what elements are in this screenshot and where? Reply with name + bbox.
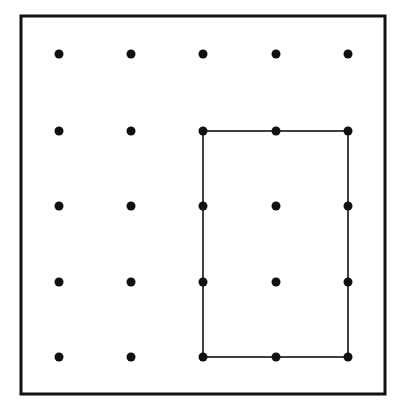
peg [127,278,136,287]
peg [199,278,208,287]
peg [344,202,353,211]
peg [344,353,353,362]
peg [272,278,281,287]
peg [127,202,136,211]
geoboard [0,0,401,414]
peg [344,50,353,59]
peg [199,127,208,136]
peg [272,127,281,136]
peg [55,353,64,362]
peg [344,278,353,287]
peg [272,202,281,211]
peg [127,127,136,136]
rubber-band-rectangle [203,131,348,357]
peg [55,278,64,287]
peg [199,353,208,362]
peg [55,127,64,136]
peg [127,353,136,362]
peg [199,202,208,211]
peg [272,50,281,59]
peg [199,50,208,59]
peg [272,353,281,362]
peg [127,50,136,59]
peg [55,50,64,59]
geoboard-canvas [0,0,401,414]
peg [344,127,353,136]
peg [55,202,64,211]
